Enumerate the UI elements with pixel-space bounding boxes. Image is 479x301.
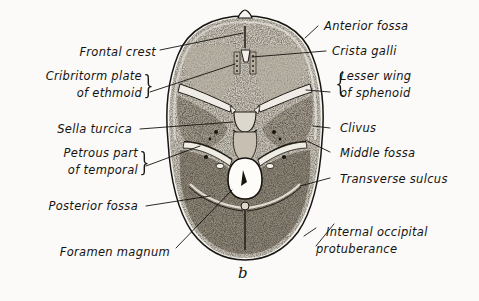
label-anterior-fossa: Anterior fossa [324, 20, 408, 32]
label-cribriform-plate-line1: Cribritorm plate [8, 70, 142, 82]
label-internal-occipital-protuberance: Internal occipital protuberance [326, 226, 428, 255]
label-posterior-fossa: Posterior fossa [20, 200, 138, 212]
label-lesser-wing: Lesser wing of sphenoid [340, 70, 411, 99]
label-anterior-fossa-line1: Anterior fossa [324, 19, 408, 33]
brace-petrous: } [139, 149, 149, 175]
foramen-ovale-right [272, 130, 276, 134]
foramen-spinosum-right [279, 138, 282, 141]
label-sella-turcica: Sella turcica [28, 123, 132, 135]
internal-acoustic-meatus-left [204, 155, 208, 159]
figure-caption: b [238, 264, 248, 282]
leader-anterior-fossa [305, 26, 318, 38]
label-foramen-magnum: Foramen magnum [28, 246, 170, 258]
label-lesser-wing-line2: of sphenoid [340, 82, 411, 99]
jugular-foramen-left [216, 163, 224, 168]
label-cribriform-plate: Cribritorm plate of ethmoid [8, 70, 142, 99]
label-internal-occipital-line1: Internal occipital [326, 226, 428, 238]
label-lesser-wing-line1: Lesser wing [340, 70, 411, 82]
label-transverse-sulcus: Transverse sulcus [340, 173, 448, 185]
label-crista-galli-line1: Crista galli [332, 44, 397, 58]
label-posterior-fossa-line1: Posterior fossa [48, 199, 138, 213]
clivus [233, 132, 257, 160]
label-crista-galli: Crista galli [332, 45, 397, 57]
label-frontal-crest-line1: Frontal crest [79, 45, 156, 59]
label-petrous-part-line2: of temporal [8, 159, 138, 176]
brace-cribriform: } [143, 72, 153, 98]
cranium-group [165, 10, 327, 264]
label-sella-turcica-line1: Sella turcica [57, 122, 132, 136]
label-petrous-part-line1: Petrous part [8, 147, 138, 159]
leader-internal-occipital-2 [304, 228, 316, 236]
label-petrous-part: Petrous part of temporal [8, 147, 138, 176]
label-foramen-magnum-line1: Foramen magnum [60, 245, 170, 259]
label-clivus: Clivus [340, 122, 376, 134]
label-cribriform-plate-line2: of ethmoid [8, 82, 142, 99]
label-middle-fossa-line1: Middle fossa [340, 146, 415, 160]
internal-occipital-protuberance [241, 202, 249, 210]
foramen-spinosum-left [209, 138, 212, 141]
internal-acoustic-meatus-right [282, 155, 286, 159]
foramen-ovale-left [214, 130, 218, 134]
label-internal-occipital-line2: protuberance [316, 238, 428, 255]
label-middle-fossa: Middle fossa [340, 147, 415, 159]
label-clivus-line1: Clivus [340, 121, 376, 135]
label-frontal-crest: Frontal crest [52, 46, 156, 58]
label-transverse-sulcus-line1: Transverse sulcus [340, 172, 448, 186]
frontal-notch [238, 10, 252, 18]
jugular-foramen-right [266, 163, 274, 168]
